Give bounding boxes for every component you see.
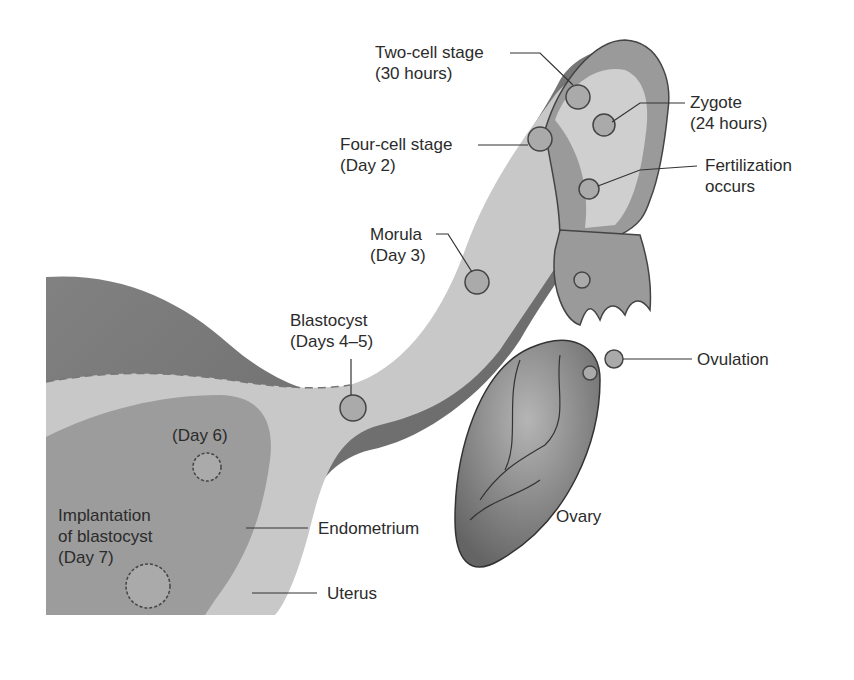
label-endometrium: Endometrium (318, 518, 419, 539)
implanting-blastocyst (126, 564, 170, 608)
follicle-egg (583, 366, 597, 380)
zygote-cell (593, 114, 615, 136)
day6-blastocyst (193, 453, 221, 481)
morula-cell (465, 270, 489, 294)
label-implantation: Implantation of blastocyst (Day 7) (58, 505, 153, 568)
two-cell-embryo (566, 85, 590, 109)
label-ovary: Ovary (556, 506, 601, 527)
label-zygote: Zygote (24 hours) (690, 92, 767, 134)
ovulated-egg (605, 350, 623, 368)
four-cell-embryo (528, 127, 552, 151)
label-blastocyst: Blastocyst (Days 4–5) (290, 310, 373, 352)
label-two-cell-stage: Two-cell stage (30 hours) (375, 42, 484, 84)
label-uterus: Uterus (327, 583, 377, 604)
blastocyst-cell (340, 395, 366, 421)
fertilized-egg (579, 179, 599, 199)
label-ovulation: Ovulation (697, 349, 769, 370)
egg-in-fimbriae (574, 272, 590, 288)
diagram-canvas: Two-cell stage (30 hours) Zygote (24 hou… (0, 0, 854, 680)
label-fertilization: Fertilization occurs (705, 155, 792, 197)
label-four-cell-stage: Four-cell stage (Day 2) (340, 134, 452, 176)
label-day-6: (Day 6) (172, 425, 228, 446)
label-morula: Morula (Day 3) (370, 224, 426, 266)
